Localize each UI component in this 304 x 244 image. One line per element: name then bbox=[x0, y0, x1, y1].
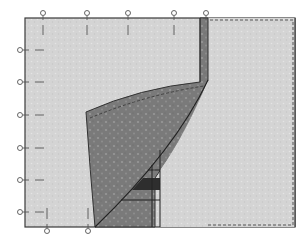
sewing-diagram: Sewing diagram: pinned fabric pieces bbox=[0, 0, 304, 244]
